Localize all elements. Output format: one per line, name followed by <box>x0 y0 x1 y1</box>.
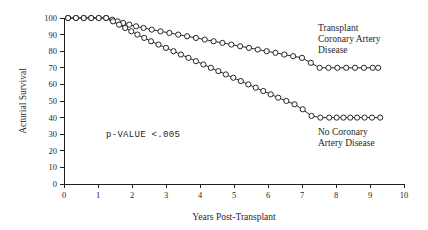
data-point-marker <box>201 62 206 67</box>
series-label-transplant-cad: Transplant Coronary Artery Disease <box>318 23 381 55</box>
data-point-marker <box>229 42 234 47</box>
data-point-marker <box>361 65 366 70</box>
data-point-marker <box>348 115 353 120</box>
data-point-marker <box>327 115 332 120</box>
data-point-marker <box>264 49 269 54</box>
data-point-marker <box>148 39 153 44</box>
x-axis-title: Years Post-Transplant <box>192 212 276 222</box>
series-label-line: Transplant <box>318 23 359 33</box>
data-point-marker <box>299 55 304 60</box>
x-tick-label: 10 <box>400 190 409 200</box>
data-point-marker <box>246 45 251 50</box>
data-point-marker <box>104 15 109 20</box>
data-point-marker <box>193 59 198 64</box>
y-axis-tick-labels: 0 10 20 30 40 50 60 70 80 90 100 <box>44 13 57 189</box>
data-point-marker <box>208 65 213 70</box>
data-point-marker <box>158 29 163 34</box>
data-point-marker <box>326 65 331 70</box>
y-tick-label: 50 <box>49 96 58 106</box>
survival-curve-chart: 0 10 20 30 40 50 60 70 80 90 100 <box>0 0 428 230</box>
x-tick-label: 0 <box>62 190 66 200</box>
data-point-marker <box>220 40 225 45</box>
data-point-marker <box>156 42 161 47</box>
data-point-marker <box>163 45 168 50</box>
data-point-marker <box>73 15 78 20</box>
data-point-marker <box>378 115 383 120</box>
data-point-marker <box>149 27 154 32</box>
series-label-line: Artery Disease <box>318 138 375 148</box>
x-tick-label: 9 <box>368 190 372 200</box>
data-point-marker <box>291 54 296 59</box>
data-point-marker <box>362 115 367 120</box>
data-point-marker <box>65 15 70 20</box>
x-tick-label: 1 <box>96 190 100 200</box>
data-point-marker <box>370 65 375 70</box>
x-tick-label: 6 <box>266 190 270 200</box>
y-axis-ticks <box>60 18 64 184</box>
data-point-marker <box>216 69 221 74</box>
data-point-marker <box>344 65 349 70</box>
y-tick-label: 70 <box>49 63 58 73</box>
data-point-marker <box>255 47 260 52</box>
data-point-marker <box>253 85 258 90</box>
data-point-marker <box>89 15 94 20</box>
y-tick-label: 80 <box>49 46 58 56</box>
data-point-marker <box>178 52 183 57</box>
x-tick-label: 8 <box>334 190 338 200</box>
data-point-marker <box>231 75 236 80</box>
data-point-marker <box>110 19 115 24</box>
data-point-marker <box>167 30 172 35</box>
data-point-marker <box>369 115 374 120</box>
data-point-marker <box>334 115 339 120</box>
data-point-marker <box>273 50 278 55</box>
data-point-marker <box>309 113 314 118</box>
data-point-marker <box>318 115 323 120</box>
y-tick-label: 40 <box>49 113 58 123</box>
x-tick-label: 7 <box>300 190 304 200</box>
data-point-marker <box>276 95 281 100</box>
data-point-marker <box>176 32 181 37</box>
data-point-marker <box>376 65 381 70</box>
chart-figure: 0 10 20 30 40 50 60 70 80 90 100 <box>0 0 428 230</box>
data-point-marker <box>268 92 273 97</box>
y-tick-label: 10 <box>49 162 58 172</box>
x-tick-label: 5 <box>232 190 236 200</box>
data-point-marker <box>81 15 86 20</box>
data-point-marker <box>238 44 243 49</box>
p-value-annotation: p-VALUE <.005 <box>106 130 180 140</box>
data-point-marker <box>238 78 243 83</box>
data-point-marker <box>141 25 146 30</box>
x-axis-ticks <box>64 184 404 188</box>
data-point-marker <box>96 15 101 20</box>
y-tick-label: 90 <box>49 30 58 40</box>
x-tick-label: 4 <box>198 190 203 200</box>
data-point-marker <box>184 34 189 39</box>
data-point-marker <box>135 32 140 37</box>
data-point-marker <box>202 37 207 42</box>
y-tick-label: 0 <box>53 179 57 189</box>
data-point-marker <box>282 52 287 57</box>
y-axis-title: Acturial Survival <box>18 68 28 134</box>
y-tick-label: 100 <box>44 13 57 23</box>
data-point-marker <box>193 35 198 40</box>
data-point-marker <box>341 115 346 120</box>
series-label-line: Disease <box>318 45 348 55</box>
x-tick-label: 3 <box>164 190 168 200</box>
x-tick-label: 2 <box>130 190 134 200</box>
data-point-marker <box>352 65 357 70</box>
x-axis-tick-labels: 0 1 2 3 4 5 6 7 8 9 10 <box>62 190 408 200</box>
data-point-marker <box>335 65 340 70</box>
series-label-line: Coronary Artery <box>318 34 381 44</box>
y-tick-label: 30 <box>49 129 58 139</box>
data-point-marker <box>354 115 359 120</box>
data-point-marker <box>292 102 297 107</box>
data-point-marker <box>317 65 322 70</box>
data-point-marker <box>211 39 216 44</box>
data-point-marker <box>133 24 138 29</box>
data-point-marker <box>261 88 266 93</box>
data-point-marker <box>142 35 147 40</box>
y-tick-label: 20 <box>49 146 58 156</box>
data-point-marker <box>116 22 121 27</box>
data-point-marker <box>123 25 128 30</box>
data-point-marker <box>223 72 228 77</box>
